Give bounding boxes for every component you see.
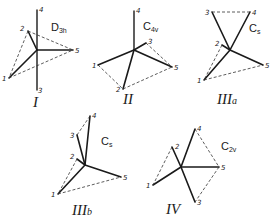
atom-label-5: 5 xyxy=(123,174,128,182)
structure-IIIa: 3 4 2 1 5 Cs IIIa xyxy=(197,9,270,107)
atom-label-3: 3 xyxy=(197,199,201,207)
atom-label-1: 1 xyxy=(2,75,6,83)
structure-roman-label: IV xyxy=(165,201,182,217)
bond-center-4 xyxy=(230,12,250,50)
atom-label-4: 4 xyxy=(252,9,256,17)
bond-center-1 xyxy=(98,50,134,65)
bond-center-5 xyxy=(230,50,263,65)
structure-roman-label: IIIb xyxy=(71,202,92,218)
bond-center-1 xyxy=(9,50,37,78)
atom-label-3: 3 xyxy=(70,132,74,140)
symmetry-label: C4v xyxy=(143,20,159,33)
edge-5-3 xyxy=(195,167,219,202)
symmetry-label: Cs xyxy=(101,135,113,148)
atom-label-2: 2 xyxy=(116,86,121,94)
atom-label-3: 3 xyxy=(38,87,42,95)
atom-label-4: 4 xyxy=(39,6,43,14)
symmetry-label: Cs xyxy=(249,22,261,35)
atom-label-1: 1 xyxy=(92,62,96,70)
structure-roman-label: II xyxy=(122,91,134,107)
atom-label-3: 3 xyxy=(148,38,152,46)
atom-label-4: 4 xyxy=(197,125,201,133)
bond-center-5 xyxy=(134,50,172,67)
edge-2-5 xyxy=(123,67,172,89)
bond-center-4 xyxy=(181,129,195,167)
atom-label-4: 4 xyxy=(136,7,140,15)
symmetry-label: C2v xyxy=(221,140,237,153)
bond-center-2 xyxy=(123,50,134,89)
atom-label-1: 1 xyxy=(197,77,201,85)
atom-label-1: 1 xyxy=(146,182,150,190)
bond-center-2 xyxy=(28,31,37,50)
atom-label-5: 5 xyxy=(265,62,270,70)
structure-roman-label: I xyxy=(32,94,39,110)
atom-label-2: 2 xyxy=(70,153,75,161)
atom-label-1: 1 xyxy=(51,191,55,199)
atom-label-5: 5 xyxy=(75,47,80,55)
geometry-diagrams: 4 2 1 5 3 D3h I 4 3 1 5 2 C4v II 3 4 xyxy=(0,0,270,218)
bond-center-4 xyxy=(85,116,90,165)
bond-center-5 xyxy=(85,165,121,177)
edge-1-5 xyxy=(204,65,263,80)
atom-label-3: 3 xyxy=(205,9,209,17)
symmetry-label: D3h xyxy=(51,21,67,34)
structure-IIIb: 4 3 2 1 5 Cs IIIb xyxy=(51,112,128,218)
diagram-canvas: 4 2 1 5 3 D3h I 4 3 1 5 2 C4v II 3 4 xyxy=(0,0,270,218)
atom-label-2: 2 xyxy=(20,25,25,33)
atom-label-4: 4 xyxy=(92,112,96,120)
atom-label-2: 2 xyxy=(175,143,180,151)
structure-II: 4 3 1 5 2 C4v II xyxy=(92,7,179,107)
edge-4-5 xyxy=(195,129,219,167)
structure-I: 4 2 1 5 3 D3h I xyxy=(2,6,80,110)
atom-label-5: 5 xyxy=(174,64,179,72)
edge-3-5 xyxy=(146,43,172,67)
edge-1-5 xyxy=(58,177,121,194)
structure-IV: 4 2 1 5 3 C2v IV xyxy=(146,125,237,217)
structure-roman-label: IIIa xyxy=(216,91,237,107)
atom-label-2: 2 xyxy=(215,40,220,48)
atom-label-5: 5 xyxy=(221,164,226,172)
bond-center-3 xyxy=(134,43,146,50)
bond-center-3 xyxy=(181,167,195,202)
